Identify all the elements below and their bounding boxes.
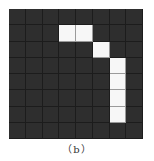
grid-cell bbox=[59, 9, 76, 25]
grid-cell bbox=[93, 58, 110, 74]
grid-cell bbox=[43, 123, 60, 139]
grid-cell bbox=[26, 42, 43, 58]
grid-cell bbox=[9, 25, 26, 41]
grid-cell-active bbox=[110, 90, 127, 106]
grid-cell bbox=[110, 9, 127, 25]
grid-cell bbox=[9, 107, 26, 123]
grid-cell bbox=[43, 25, 60, 41]
grid-cell bbox=[126, 74, 143, 90]
grid-cell bbox=[9, 90, 26, 106]
grid-cell bbox=[93, 74, 110, 90]
grid-cell bbox=[126, 123, 143, 139]
grid-cell bbox=[9, 58, 26, 74]
grid-cell bbox=[110, 42, 127, 58]
grid-cell bbox=[59, 42, 76, 58]
grid-cell bbox=[110, 123, 127, 139]
grid-cell bbox=[76, 123, 93, 139]
grid-cell bbox=[43, 42, 60, 58]
grid-cell bbox=[9, 9, 26, 25]
grid-cell bbox=[9, 42, 26, 58]
grid-cell-active bbox=[76, 25, 93, 41]
grid-cell bbox=[26, 9, 43, 25]
grid-cell-active bbox=[110, 58, 127, 74]
grid-cell bbox=[76, 58, 93, 74]
grid-cell bbox=[43, 9, 60, 25]
grid-cell bbox=[59, 58, 76, 74]
grid-cell bbox=[26, 123, 43, 139]
grid-cell-active bbox=[59, 25, 76, 41]
grid-cell bbox=[76, 90, 93, 106]
grid-cell-active bbox=[93, 42, 110, 58]
grid-cell bbox=[110, 25, 127, 41]
grid-cell bbox=[76, 9, 93, 25]
grid-cell bbox=[76, 42, 93, 58]
grid-cell bbox=[126, 25, 143, 41]
grid-cell bbox=[76, 74, 93, 90]
pixel-grid bbox=[9, 9, 143, 139]
grid-cell bbox=[93, 9, 110, 25]
grid-cell bbox=[43, 58, 60, 74]
figure-caption: （b） bbox=[0, 141, 154, 156]
grid-cell bbox=[93, 107, 110, 123]
grid-cell bbox=[126, 42, 143, 58]
grid-cell bbox=[76, 107, 93, 123]
grid-cell-active bbox=[110, 107, 127, 123]
grid-cell bbox=[59, 107, 76, 123]
grid-cell bbox=[43, 107, 60, 123]
grid-cell bbox=[93, 123, 110, 139]
grid-cell bbox=[9, 74, 26, 90]
grid-cell bbox=[26, 107, 43, 123]
grid-cell bbox=[43, 90, 60, 106]
grid-cell bbox=[59, 90, 76, 106]
grid-cell bbox=[126, 58, 143, 74]
grid-cell bbox=[26, 25, 43, 41]
grid-cell bbox=[9, 123, 26, 139]
grid-cell bbox=[93, 25, 110, 41]
grid-cell bbox=[59, 74, 76, 90]
grid-cell bbox=[126, 107, 143, 123]
grid-cell bbox=[26, 90, 43, 106]
grid-cell bbox=[126, 9, 143, 25]
grid-cell bbox=[26, 58, 43, 74]
grid-cell bbox=[93, 90, 110, 106]
grid-cell-active bbox=[110, 74, 127, 90]
grid-cell bbox=[126, 90, 143, 106]
grid-cell bbox=[59, 123, 76, 139]
grid-cell bbox=[26, 74, 43, 90]
grid-cell bbox=[43, 74, 60, 90]
